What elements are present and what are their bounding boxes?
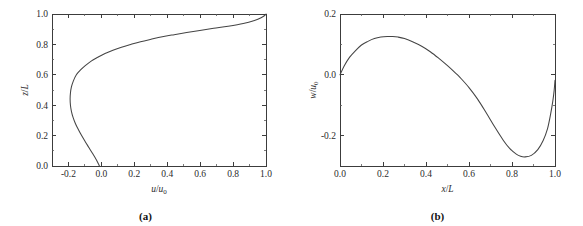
x-tick-label: 0.2 <box>377 169 389 179</box>
x-tick-label: 1.0 <box>549 169 561 179</box>
panel-a-curve <box>70 14 266 166</box>
panel-b-axes <box>340 14 555 166</box>
x-tick-label: 0.4 <box>420 169 432 179</box>
panel-a-x-tick-labels: -0.20.00.20.40.60.81.0 <box>61 169 272 179</box>
axis-label-text: u/u0 <box>151 184 167 196</box>
panel-b: 0.00.20.40.60.81.0 -0.20.00.2 x/L w/u0 (… <box>292 0 583 226</box>
panel-a-plot: -0.20.00.20.40.60.81.0 0.00.20.40.60.81.… <box>0 0 291 226</box>
x-tick-label: 0.6 <box>463 169 475 179</box>
panel-a-ticks <box>52 14 266 166</box>
y-tick-label: 0.4 <box>36 101 48 111</box>
x-tick-label: 0.8 <box>227 169 239 179</box>
panel-b-y-axis-label: w/u0 <box>308 81 320 99</box>
y-tick-label: 0.6 <box>36 70 48 80</box>
panel-a-y-axis-label: z/L <box>20 84 30 97</box>
y-tick-label: 1.0 <box>36 9 48 19</box>
panel-a-x-axis-label: u/u0 <box>151 184 167 196</box>
panel-b-y-tick-labels: -0.20.00.2 <box>321 9 336 141</box>
y-tick-label: 0.8 <box>36 40 48 50</box>
panel-a: -0.20.00.20.40.60.81.0 0.00.20.40.60.81.… <box>0 0 291 226</box>
y-tick-label: 0.2 <box>36 131 48 141</box>
panel-b-x-tick-labels: 0.00.20.40.60.81.0 <box>334 169 561 179</box>
x-tick-label: 0.6 <box>194 169 206 179</box>
x-tick-label: -0.2 <box>61 169 76 179</box>
panel-b-plot: 0.00.20.40.60.81.0 -0.20.00.2 x/L w/u0 <box>292 0 583 226</box>
y-tick-label: -0.2 <box>321 131 336 141</box>
panel-a-axes <box>52 14 266 166</box>
axis-label-text: z/L <box>20 84 30 97</box>
x-tick-label: 0.2 <box>128 169 140 179</box>
x-tick-label: 1.0 <box>260 169 272 179</box>
y-tick-label: 0.0 <box>324 70 336 80</box>
panel-b-ticks <box>340 14 555 166</box>
y-tick-label: 0.2 <box>324 9 336 19</box>
panel-b-x-axis-label: x/L <box>440 184 453 194</box>
x-tick-label: 0.8 <box>506 169 518 179</box>
x-tick-label: 0.4 <box>161 169 173 179</box>
axis-label-text: x/L <box>440 184 453 194</box>
panel-b-caption: (b) <box>292 210 583 222</box>
x-tick-label: 0.0 <box>95 169 107 179</box>
panel-b-curve <box>340 36 555 157</box>
axis-label-text: w/u0 <box>308 81 320 99</box>
panel-a-y-tick-labels: 0.00.20.40.60.81.0 <box>36 9 48 171</box>
panel-a-caption: (a) <box>0 210 291 222</box>
y-tick-label: 0.0 <box>36 161 48 171</box>
x-tick-label: 0.0 <box>334 169 346 179</box>
figure-container: -0.20.00.20.40.60.81.0 0.00.20.40.60.81.… <box>0 0 583 226</box>
